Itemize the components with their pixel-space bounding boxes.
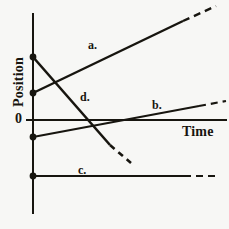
origin-tick-label: 0 bbox=[15, 111, 22, 127]
line-a-dashed-extension bbox=[183, 6, 216, 21]
series-label-d: d. bbox=[80, 90, 90, 105]
line-c-start-dot bbox=[30, 173, 37, 180]
y-axis-label: Position bbox=[11, 46, 27, 118]
line-a-start-dot bbox=[30, 90, 37, 97]
series-label-c: c. bbox=[78, 163, 86, 178]
x-axis-label: Time bbox=[182, 124, 214, 140]
line-b-start-dot bbox=[30, 134, 37, 141]
line-d-dashed-extension bbox=[110, 145, 131, 163]
series-label-b: b. bbox=[152, 98, 162, 113]
line-d-start-dot bbox=[30, 54, 37, 61]
line-d-solid bbox=[33, 57, 110, 145]
position-vs-time-figure: Position Time 0 a. b. c. d. bbox=[0, 0, 229, 229]
series-label-a: a. bbox=[88, 38, 97, 53]
line-b-solid bbox=[33, 106, 199, 137]
plot-canvas bbox=[0, 0, 229, 229]
line-b-dashed-extension bbox=[199, 101, 226, 106]
